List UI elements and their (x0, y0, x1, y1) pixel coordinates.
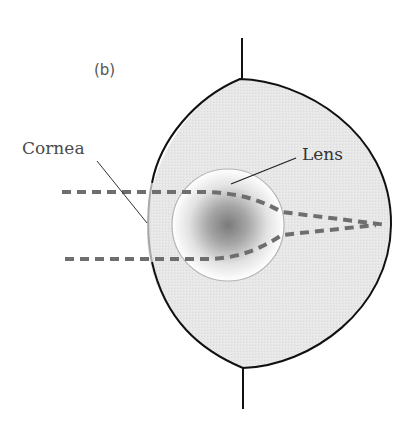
lens (172, 169, 284, 281)
eye-optics-diagram: (b) Cornea Lens (0, 0, 415, 428)
panel-label: (b) (94, 63, 115, 78)
cornea-label: Cornea (22, 140, 85, 157)
eye-cross-section (0, 0, 415, 428)
lens-label: Lens (302, 146, 343, 163)
